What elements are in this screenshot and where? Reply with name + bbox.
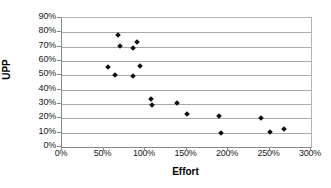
data-point: [267, 129, 273, 135]
x-axis-title: Effort: [61, 166, 310, 177]
x-tick-mark: [186, 147, 187, 151]
y-tick-label: 40%: [0, 84, 56, 93]
y-tick-label: 90%: [0, 12, 56, 21]
data-point: [130, 73, 136, 79]
y-tick-label: 10%: [0, 127, 56, 136]
data-point: [137, 63, 143, 69]
x-tick-mark: [269, 147, 270, 151]
data-point: [117, 43, 123, 49]
data-points-layer: [62, 18, 311, 147]
y-tick-mark: [57, 74, 61, 75]
y-tick-mark: [57, 60, 61, 61]
x-tick-mark: [310, 147, 311, 151]
data-point: [105, 65, 111, 71]
data-point: [258, 115, 264, 121]
y-tick-mark: [57, 89, 61, 90]
y-tick-label: 30%: [0, 98, 56, 107]
y-tick-label: 50%: [0, 69, 56, 78]
data-point: [216, 113, 222, 119]
y-tick-mark: [57, 31, 61, 32]
data-point: [282, 126, 288, 132]
data-point: [184, 111, 190, 117]
data-point: [148, 96, 154, 102]
scatter-chart: UPP 0%10%20%30%40%50%60%70%80%90% 0%50%1…: [0, 0, 331, 188]
data-point: [174, 100, 180, 106]
y-axis-tick-labels: 0%10%20%30%40%50%60%70%80%90%: [0, 17, 56, 146]
y-tick-label: 20%: [0, 112, 56, 121]
x-tick-mark: [61, 147, 62, 151]
y-tick-mark: [57, 117, 61, 118]
x-tick-mark: [227, 147, 228, 151]
y-tick-label: 80%: [0, 26, 56, 35]
y-tick-mark: [57, 17, 61, 18]
y-tick-mark: [57, 103, 61, 104]
data-point: [219, 130, 225, 136]
y-tick-mark: [57, 46, 61, 47]
x-tick-mark: [144, 147, 145, 151]
y-tick-label: 70%: [0, 41, 56, 50]
data-point: [116, 32, 122, 38]
data-point: [149, 102, 155, 108]
data-point: [134, 39, 140, 45]
x-tick-mark: [103, 147, 104, 151]
y-tick-label: 60%: [0, 55, 56, 64]
plot-area: [61, 17, 312, 148]
y-tick-mark: [57, 132, 61, 133]
data-point: [112, 72, 118, 78]
data-point: [131, 45, 137, 51]
